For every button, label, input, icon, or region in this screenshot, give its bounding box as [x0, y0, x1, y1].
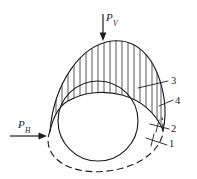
diagram-canvas — [0, 0, 197, 179]
vertical-force-subscript: V — [113, 19, 118, 28]
horizontal-force-label: PH — [18, 119, 30, 133]
callout-1-leader — [146, 134, 167, 146]
horizontal-force-symbol: P — [18, 118, 25, 130]
figure-container: PV PH 3 4 2 1 — [0, 0, 197, 179]
dashed-outer-boundary — [48, 130, 163, 172]
callout-2-leader — [150, 120, 169, 132]
callout-label-3: 3 — [171, 76, 176, 87]
vertical-force-symbol: P — [106, 11, 113, 23]
horizontal-force-subscript: H — [25, 126, 30, 135]
callout-label-4: 4 — [175, 96, 180, 107]
callout-label-2: 2 — [171, 124, 176, 135]
callout-3-leader — [138, 81, 168, 88]
vertical-force-label: PV — [106, 12, 117, 26]
callout-label-1: 1 — [169, 139, 174, 150]
